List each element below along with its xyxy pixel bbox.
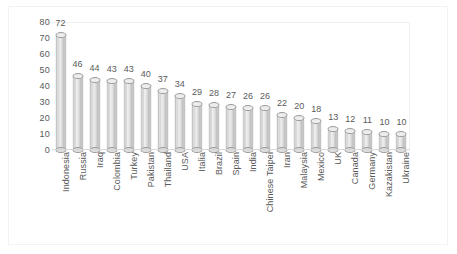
bar-cylinder[interactable] xyxy=(106,81,117,150)
bar-cylinder-top xyxy=(379,131,390,137)
x-label-slot: India xyxy=(240,152,257,248)
bar-cylinder-top xyxy=(260,105,271,111)
bar-cylinder[interactable] xyxy=(362,132,373,150)
bar-cylinder[interactable] xyxy=(225,107,236,150)
plot-area: 7246444343403734292827262622201813121110… xyxy=(52,22,410,150)
bar-cylinder[interactable] xyxy=(294,118,305,150)
bar-cylinder[interactable] xyxy=(311,121,322,150)
bar-cylinder-top xyxy=(174,93,185,99)
bar-slot: 46 xyxy=(69,22,86,150)
bar-slot: 34 xyxy=(171,22,188,150)
bar-value-label: 72 xyxy=(56,18,66,28)
bar-cylinder[interactable] xyxy=(277,115,288,150)
bar-cylinder[interactable] xyxy=(396,134,407,150)
bar-cylinder[interactable] xyxy=(328,129,339,150)
bar-cylinder-top xyxy=(243,105,254,111)
bar-value-label: 44 xyxy=(90,63,100,73)
bar-cylinder[interactable] xyxy=(89,80,100,150)
x-label-slot: Russia xyxy=(69,152,86,248)
bar-value-label: 43 xyxy=(107,64,117,74)
bar-cylinder-top xyxy=(396,131,407,137)
bar-value-label: 11 xyxy=(363,115,372,125)
bar-value-label: 29 xyxy=(192,87,202,97)
bar-slot: 20 xyxy=(291,22,308,150)
x-label-slot: Pakistan xyxy=(137,152,154,248)
bar-slot: 37 xyxy=(154,22,171,150)
bar-cylinder[interactable] xyxy=(260,108,271,150)
bar-slot: 43 xyxy=(120,22,137,150)
bar-cylinder-top xyxy=(55,32,66,38)
x-label-slot: Italia xyxy=(188,152,205,248)
chart-figure: 01020304050607080 7246444343403734292827… xyxy=(0,0,457,254)
x-label-slot: Kazakistan xyxy=(376,152,393,248)
bar-slot: 72 xyxy=(52,22,69,150)
x-label-slot: Colombia xyxy=(103,152,120,248)
x-label-slot: Spain xyxy=(222,152,239,248)
bar-value-label: 40 xyxy=(141,69,151,79)
x-label-slot: Thailand xyxy=(154,152,171,248)
y-axis-tick-label: 50 xyxy=(40,65,50,75)
x-label-slot: UK xyxy=(325,152,342,248)
bar-value-label: 26 xyxy=(243,91,253,101)
bar-cylinder-top xyxy=(362,129,373,135)
bar-value-label: 43 xyxy=(124,64,134,74)
bar-value-label: 37 xyxy=(158,74,168,84)
bar-value-label: 46 xyxy=(73,59,83,69)
bar-cylinder[interactable] xyxy=(243,108,254,150)
bar-slot: 12 xyxy=(342,22,359,150)
bar-cylinder[interactable] xyxy=(191,104,202,150)
x-axis-tick-label: Ukraine xyxy=(401,152,411,184)
bar-slot: 40 xyxy=(137,22,154,150)
bar-cylinder[interactable] xyxy=(123,81,134,150)
bar-cylinder-top xyxy=(123,78,134,84)
bar-slot: 13 xyxy=(325,22,342,150)
y-axis-tick-label: 70 xyxy=(40,33,50,43)
bar-value-label: 13 xyxy=(328,112,338,122)
bar-cylinder[interactable] xyxy=(140,86,151,150)
bar-cylinder[interactable] xyxy=(55,35,66,150)
bar-cylinder[interactable] xyxy=(379,134,390,150)
bar-value-label: 20 xyxy=(294,101,304,111)
bar-slot: 11 xyxy=(359,22,376,150)
bar-slot: 10 xyxy=(393,22,410,150)
x-label-slot: Mexico xyxy=(308,152,325,248)
bar-slot: 26 xyxy=(257,22,274,150)
y-axis: 01020304050607080 xyxy=(14,22,50,150)
bar-cylinder-top xyxy=(294,115,305,121)
bar-cylinder-top xyxy=(191,101,202,107)
bar-slot: 28 xyxy=(205,22,222,150)
x-axis-line xyxy=(52,149,410,150)
bar-cylinder[interactable] xyxy=(345,131,356,150)
bar-cylinder-top xyxy=(89,77,100,83)
x-label-slot: Iraq xyxy=(86,152,103,248)
x-label-slot: Canada xyxy=(342,152,359,248)
y-axis-tick-label: 10 xyxy=(40,129,50,139)
bar-slot: 10 xyxy=(376,22,393,150)
bar-slot: 29 xyxy=(188,22,205,150)
x-label-slot: Germany xyxy=(359,152,376,248)
bar-value-label: 22 xyxy=(277,98,287,108)
bar-slot: 26 xyxy=(240,22,257,150)
bar-cylinder-top xyxy=(106,78,117,84)
y-axis-tick-label: 40 xyxy=(40,81,50,91)
x-label-slot: Brazil xyxy=(205,152,222,248)
bar-slot: 18 xyxy=(308,22,325,150)
bar-cylinder[interactable] xyxy=(174,96,185,150)
bar-cylinder-top xyxy=(208,102,219,108)
y-axis-tick-label: 80 xyxy=(40,17,50,27)
bar-cylinder-top xyxy=(311,118,322,124)
bar-cylinder-top xyxy=(157,88,168,94)
bar-slot: 27 xyxy=(222,22,239,150)
bar-value-label: 12 xyxy=(345,114,355,124)
bar-value-label: 18 xyxy=(311,104,321,114)
x-label-slot: Turkey xyxy=(120,152,137,248)
bar-value-label: 26 xyxy=(260,91,270,101)
bar-cylinder[interactable] xyxy=(208,105,219,150)
bar-value-label: 34 xyxy=(175,79,185,89)
bar-cylinder[interactable] xyxy=(72,76,83,150)
bar-cylinder[interactable] xyxy=(157,91,168,150)
y-axis-tick-label: 20 xyxy=(40,113,50,123)
bar-slot: 22 xyxy=(274,22,291,150)
x-label-slot: Indonesia xyxy=(52,152,69,248)
bar-cylinder-top xyxy=(140,83,151,89)
